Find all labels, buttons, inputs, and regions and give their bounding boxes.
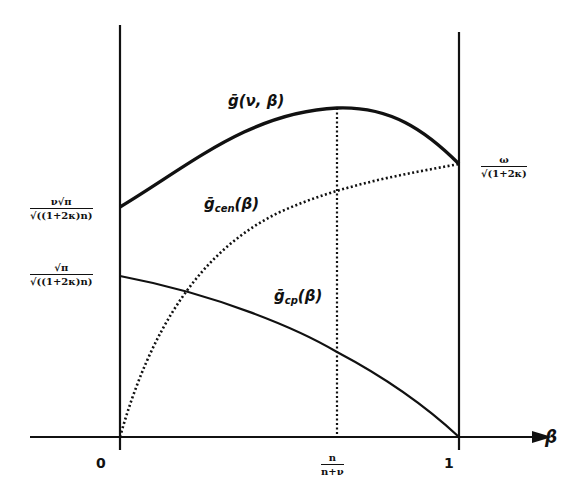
xtick-peak: nn+ν <box>321 452 344 477</box>
label-gcen: ḡcen(β) <box>204 195 259 214</box>
ylabel-gcp-start: √π√((1+2κ)n) <box>30 262 93 287</box>
label-gcp: ḡcp(β) <box>274 287 322 306</box>
ylabel-g-start: ν√π√((1+2κ)n) <box>30 196 93 221</box>
plot-canvas <box>0 0 584 498</box>
ylabel-end: ω√(1+2κ) <box>481 154 527 179</box>
x-axis-label: β <box>545 427 557 447</box>
xtick-one: 1 <box>444 455 454 471</box>
xtick-zero: 0 <box>96 455 106 471</box>
curve-g <box>120 108 459 207</box>
label-g: ḡ(ν, β) <box>228 92 284 110</box>
